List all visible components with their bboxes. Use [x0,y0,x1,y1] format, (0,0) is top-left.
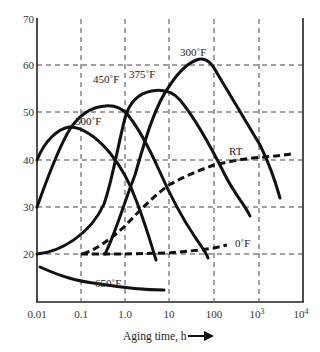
x-tick-1: 1.0 [118,308,132,320]
label-650F: 650˚F [95,277,121,289]
x-axis-label: Aging time, h [123,330,187,343]
x-tick-0.1: 0.1 [74,308,88,320]
y-tick-60: 60 [23,59,35,71]
y-tick-70: 70 [23,13,35,25]
curve-300F [105,59,280,254]
label-500F: 500˚F [75,115,101,127]
y-tick-50: 50 [23,106,35,118]
arrow-right-icon [188,331,214,341]
curve-375F [37,90,250,254]
x-tick-100: 100 [206,308,223,320]
label-450F: 450˚F [93,73,119,85]
y-tick-40: 40 [23,154,35,166]
aging-curves-chart: 650˚F 500˚F 450˚F 375˚F 300˚F RT 0˚F 70 … [0,0,320,352]
label-300F: 300˚F [180,46,206,58]
y-tick-30: 30 [23,201,35,213]
x-tick-0.01: 0.01 [27,308,46,320]
curve-500F [37,127,156,260]
y-tick-20: 20 [23,248,35,260]
label-RT: RT [229,145,243,157]
x-tick-10: 10 [164,308,176,320]
x-tick-10000: 104 [294,307,309,320]
x-tick-1000: 103 [250,307,265,320]
x-tick-labels: 0.01 0.1 1.0 10 100 103 104 [27,307,308,320]
label-375F: 375˚F [129,68,155,80]
y-tick-labels: 70 60 50 40 30 20 [23,13,35,260]
label-0F: 0˚F [235,237,250,249]
